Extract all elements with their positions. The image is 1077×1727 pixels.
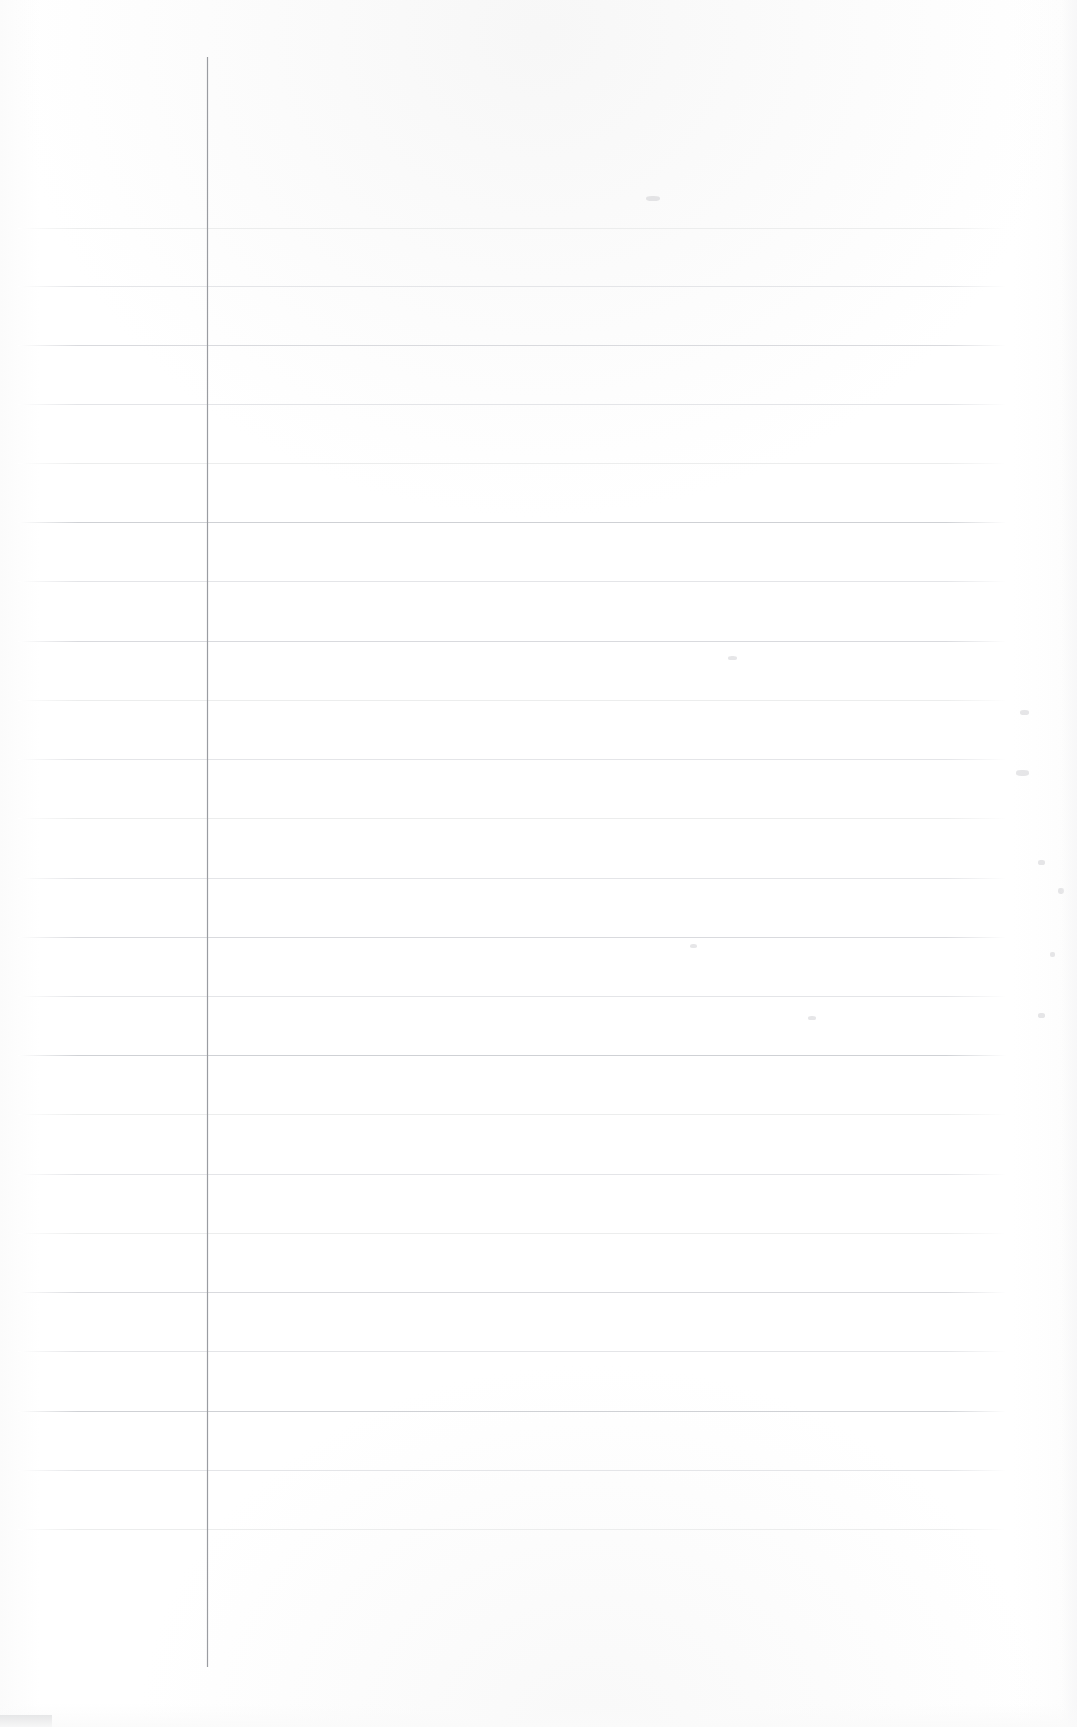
ruled-line: [18, 1470, 1006, 1471]
ruled-line: [18, 522, 1006, 523]
scanned-page: [0, 0, 1077, 1727]
ruled-line: [18, 581, 1006, 582]
ruled-line: [18, 1233, 1006, 1234]
ruled-line: [18, 878, 1006, 879]
ruled-line: [18, 463, 1006, 464]
scan-smudge: [1038, 1013, 1045, 1018]
ruled-line: [18, 1292, 1006, 1293]
scan-smudge: [728, 656, 737, 660]
ruled-line: [18, 228, 1006, 229]
scan-smudge: [1038, 860, 1045, 865]
ruled-line: [18, 1529, 1006, 1530]
ruled-line: [18, 1114, 1006, 1115]
ruled-lines-layer: [0, 0, 1077, 1727]
ruled-line: [18, 759, 1006, 760]
ruled-line: [18, 345, 1006, 346]
bottom-edge-shading: [0, 1703, 1077, 1727]
scan-smudge: [690, 944, 697, 948]
ruled-line: [18, 996, 1006, 997]
ruled-line: [18, 818, 1006, 819]
scan-smudge: [646, 196, 660, 201]
ruled-line: [18, 1174, 1006, 1175]
vertical-margin-line: [207, 57, 208, 1667]
ruled-line: [18, 641, 1006, 642]
ruled-line: [18, 1351, 1006, 1352]
ruled-line: [18, 286, 1006, 287]
ruled-line: [18, 1411, 1006, 1412]
ruled-line: [18, 404, 1006, 405]
ruled-line: [18, 1055, 1006, 1056]
ruled-line: [18, 700, 1006, 701]
scan-smudge: [1020, 710, 1029, 715]
right-edge-shading: [1061, 0, 1077, 1727]
ruled-line: [18, 937, 1006, 938]
scan-smudge: [1016, 770, 1029, 776]
scan-smudge: [808, 1016, 816, 1020]
scan-smudge: [1050, 952, 1055, 957]
